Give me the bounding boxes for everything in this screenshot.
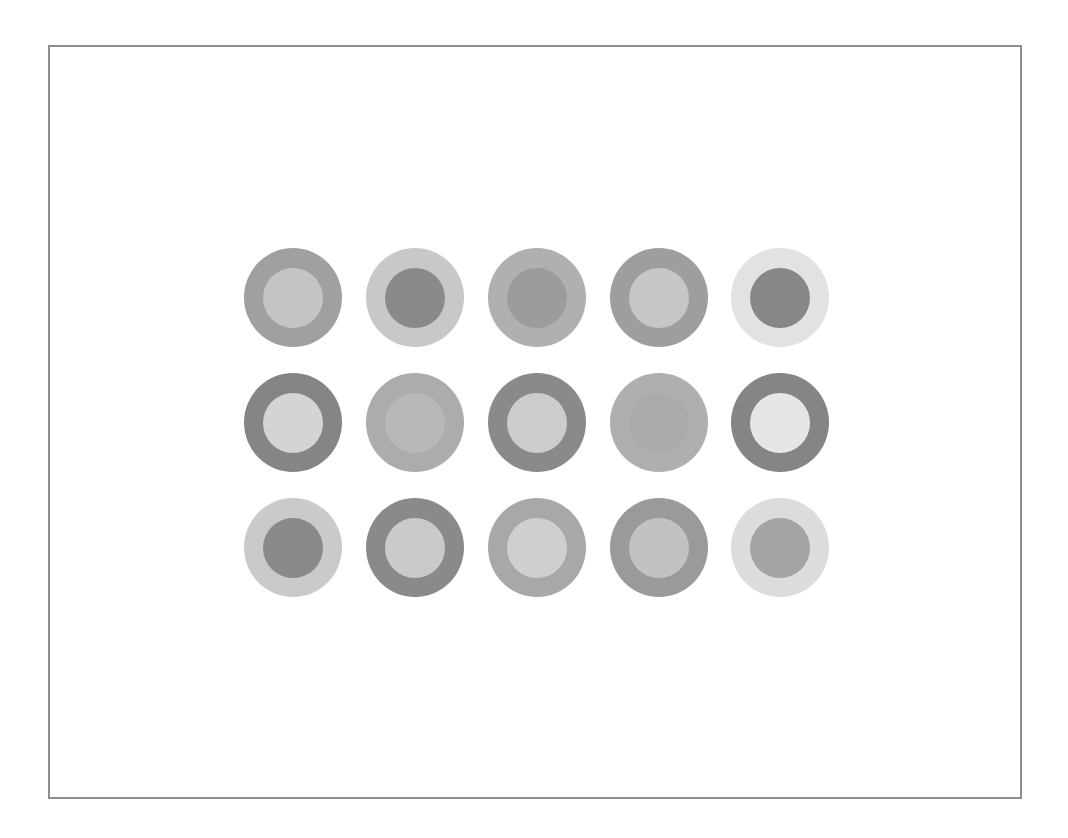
inner-disc — [629, 268, 689, 328]
inner-disc — [385, 518, 445, 578]
inner-disc — [629, 518, 689, 578]
inner-disc — [507, 393, 567, 453]
concentric-circle-r3-c5 — [731, 498, 829, 597]
concentric-circle-r1-c5 — [731, 248, 829, 347]
concentric-circle-r3-c4 — [610, 498, 708, 597]
inner-disc — [507, 518, 567, 578]
concentric-circle-r1-c1 — [244, 248, 342, 347]
concentric-circle-r1-c3 — [488, 248, 586, 347]
concentric-circle-r2-c4 — [610, 373, 708, 472]
inner-disc — [750, 518, 810, 578]
concentric-circle-r2-c2 — [366, 373, 464, 472]
concentric-circle-r2-c1 — [244, 373, 342, 472]
inner-disc — [263, 268, 323, 328]
concentric-circle-r3-c2 — [366, 498, 464, 597]
concentric-circle-r1-c2 — [366, 248, 464, 347]
concentric-circle-r3-c3 — [488, 498, 586, 597]
inner-disc — [385, 393, 445, 453]
concentric-circle-r2-c5 — [731, 373, 829, 472]
inner-disc — [263, 393, 323, 453]
concentric-circle-r3-c1 — [244, 498, 342, 597]
inner-disc — [507, 268, 567, 328]
inner-disc — [750, 393, 810, 453]
concentric-circle-r1-c4 — [610, 248, 708, 347]
concentric-circle-r2-c3 — [488, 373, 586, 472]
inner-disc — [629, 393, 689, 453]
inner-disc — [263, 518, 323, 578]
inner-disc — [750, 268, 810, 328]
inner-disc — [385, 268, 445, 328]
